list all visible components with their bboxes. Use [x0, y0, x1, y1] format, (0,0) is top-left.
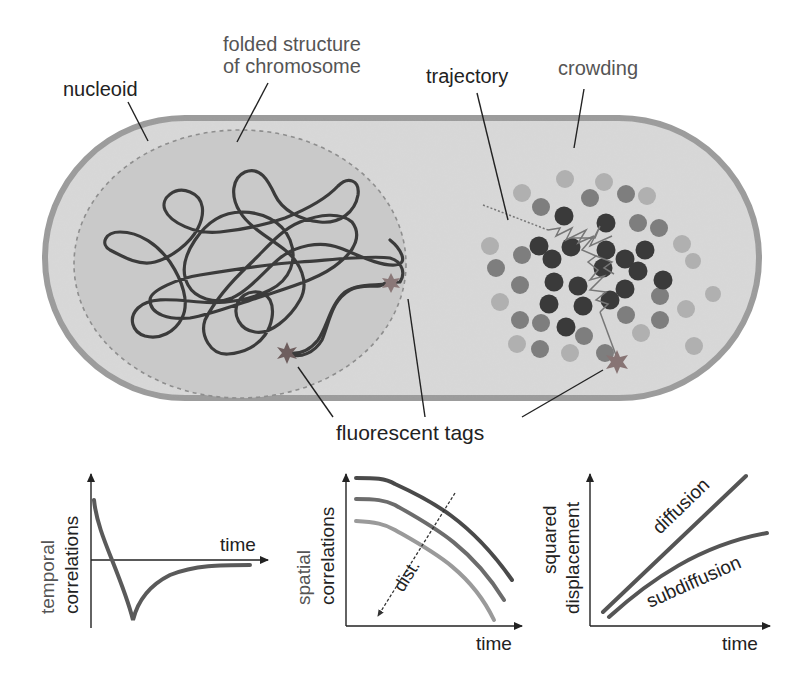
- label-trajectory: trajectory: [426, 65, 508, 87]
- xlabel-time-2: time: [476, 633, 512, 654]
- distance-arrow: [378, 493, 455, 616]
- ylabel-temporal: temporal: [37, 540, 58, 614]
- label-folded-structure-line2: of chromosome: [223, 55, 361, 77]
- ylabel-spatial: spatial: [293, 550, 314, 605]
- ylabel-correlations-2: correlations: [317, 507, 338, 605]
- xlabel-time-3: time: [722, 633, 758, 654]
- cell-diagram-figure: nucleoid folded structure of chromosome …: [0, 0, 804, 679]
- xlabel-time-1: time: [220, 534, 256, 555]
- plot-temporal-correlations: time temporal correlations: [37, 474, 268, 628]
- label-fluorescent-tags: fluorescent tags: [336, 421, 484, 444]
- annotation-dist: dist.: [389, 557, 423, 596]
- ylabel-correlations-1: correlations: [61, 516, 82, 614]
- plot-spatial-correlations: dist. time spatial correlations: [293, 474, 522, 654]
- label-nucleoid: nucleoid: [63, 78, 138, 100]
- label-crowding: crowding: [558, 57, 638, 79]
- plot-squared-displacement: diffusion subdiffusion time squared disp…: [539, 474, 770, 654]
- label-diffusion: diffusion: [648, 474, 713, 538]
- label-folded-structure-line1: folded structure: [223, 33, 361, 55]
- nucleoid-region: [74, 130, 406, 398]
- ylabel-squared: squared: [539, 505, 560, 574]
- ylabel-displacement: displacement: [562, 501, 583, 614]
